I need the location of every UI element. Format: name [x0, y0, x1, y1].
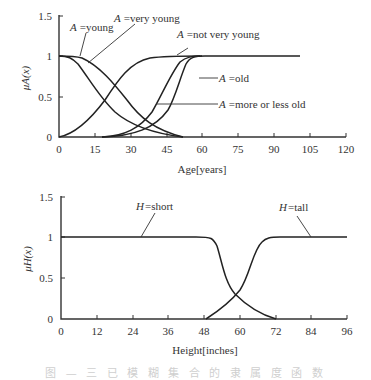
curve-old [102, 56, 300, 137]
height-x-axis-title: Height[inches] [172, 344, 237, 356]
curve-very-young [59, 56, 183, 137]
x-tick-24: 24 [128, 325, 140, 337]
label-very-young: A=very young [113, 12, 180, 24]
x-tick-96: 96 [342, 325, 354, 337]
age-chart: 1.5 1 0.5 0 0 15 30 45 60 75 90 105 120 [19, 10, 355, 175]
x-tick-36: 36 [163, 325, 175, 337]
curve-young [59, 56, 183, 137]
age-y-axis-title: μA(x) [19, 65, 32, 91]
y-tick-0.5: 0.5 [38, 91, 52, 103]
y-tick-1: 1 [48, 231, 54, 243]
y-tick-0.5: 0.5 [39, 272, 53, 284]
height-curves [61, 237, 347, 319]
x-tick-120: 120 [338, 143, 355, 155]
x-tick-75: 75 [233, 143, 245, 155]
curve-tall [206, 237, 347, 319]
height-axes [61, 196, 347, 319]
x-tick-48: 48 [199, 325, 211, 337]
curve-short [61, 237, 276, 319]
label-old: A=old [218, 72, 249, 84]
age-x-tick-labels: 0 15 30 45 60 75 90 105 120 [56, 143, 355, 155]
height-y-tick-labels: 1.5 1 0.5 0 [39, 191, 53, 325]
x-tick-15: 15 [90, 143, 102, 155]
label-tall: H=tall [278, 201, 308, 213]
height-x-tick-labels: 0 12 24 36 48 60 72 84 96 [58, 325, 353, 337]
label-young: A=young [69, 21, 114, 33]
label-short: H=short [135, 200, 173, 212]
y-tick-0: 0 [48, 313, 54, 325]
height-y-axis-title: μH(x) [21, 246, 34, 273]
height-chart: 1.5 1 0.5 0 0 12 24 36 48 60 72 84 96 He… [21, 191, 353, 356]
x-tick-60: 60 [235, 325, 247, 337]
x-tick-0: 0 [56, 143, 62, 155]
figure-caption: 图 — 三 已 模 糊 集 合 的 隶 属 度 函 数 [0, 364, 371, 380]
age-y-tick-labels: 1.5 1 0.5 0 [38, 10, 52, 143]
x-tick-60: 60 [197, 143, 209, 155]
x-tick-12: 12 [92, 325, 103, 337]
x-tick-72: 72 [271, 325, 282, 337]
x-tick-90: 90 [269, 143, 281, 155]
y-tick-1.5: 1.5 [38, 10, 52, 22]
label-not-very-young: A=not very young [176, 28, 260, 40]
x-tick-0: 0 [58, 325, 64, 337]
x-tick-84: 84 [306, 325, 318, 337]
age-x-axis-title: Age[years] [178, 163, 227, 175]
x-tick-105: 105 [302, 143, 319, 155]
age-curves [59, 56, 300, 137]
x-tick-30: 30 [126, 143, 138, 155]
y-tick-1: 1 [47, 50, 53, 62]
y-tick-1.5: 1.5 [39, 191, 53, 203]
height-annotations: H=short H=tall [135, 200, 311, 237]
label-more-or-less-old: A=more or less old [218, 98, 306, 110]
x-tick-45: 45 [162, 143, 174, 155]
y-tick-0: 0 [47, 131, 53, 143]
